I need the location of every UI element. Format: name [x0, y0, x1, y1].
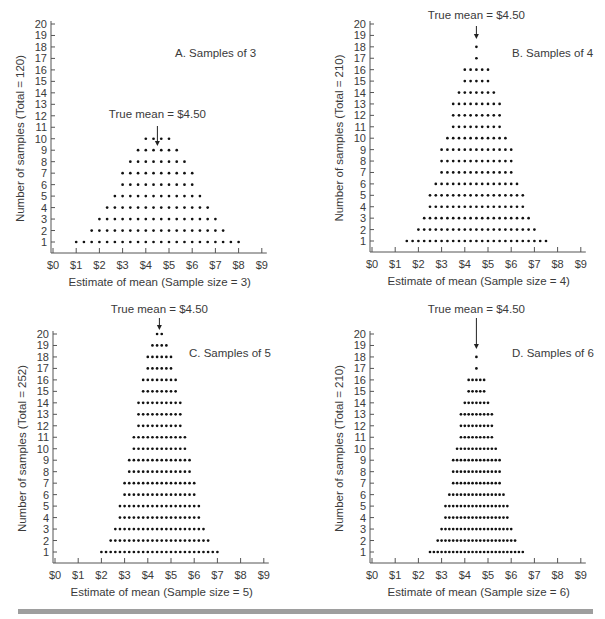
- y-tick-label: 7: [360, 477, 366, 489]
- y-tick-label: 5: [360, 500, 366, 512]
- x-tick-label: $8: [551, 569, 563, 581]
- y-tick-label: 10: [354, 443, 366, 455]
- x-tick-label: $4: [459, 569, 471, 581]
- y-tick-label: 11: [355, 431, 366, 443]
- y-tick-label: 3: [360, 523, 366, 535]
- y-axis-label: Number of samples (Total = 210): [333, 365, 345, 532]
- arrow-down-icon: [474, 318, 479, 349]
- chart-d-svg: 1234567891011121314151617181920$0$1$2$3$…: [0, 0, 605, 619]
- x-tick-label: $2: [412, 569, 424, 581]
- y-tick-label: 9: [360, 454, 366, 466]
- y-tick-label: 2: [360, 535, 366, 547]
- y-tick-label: 1: [360, 546, 366, 558]
- bottom-rule: [18, 609, 593, 614]
- true-mean-annotation: True mean = $4.50: [428, 303, 525, 315]
- chart-panel-d: 1234567891011121314151617181920$0$1$2$3$…: [0, 0, 605, 619]
- y-tick-label: 15: [354, 385, 366, 397]
- y-tick-label: 12: [354, 420, 366, 432]
- x-tick-label: $3: [435, 569, 447, 581]
- x-tick-label: $7: [528, 569, 540, 581]
- y-tick-label: 19: [354, 339, 366, 351]
- x-axis-label: Estimate of mean (Sample size = 6): [387, 586, 570, 598]
- y-tick-label: 18: [354, 351, 366, 363]
- x-tick-label: $6: [505, 569, 517, 581]
- x-tick-label: $9: [575, 569, 587, 581]
- x-tick-label: $0: [366, 569, 378, 581]
- x-tick-label: $5: [482, 569, 494, 581]
- panel-title: D. Samples of 6: [512, 347, 594, 359]
- x-tick-label: $1: [389, 569, 401, 581]
- dot-histogram: [429, 356, 525, 554]
- y-tick-label: 17: [354, 362, 366, 374]
- y-tick-label: 6: [360, 489, 366, 501]
- y-tick-label: 13: [354, 408, 366, 420]
- y-tick-label: 16: [354, 374, 366, 386]
- y-tick-label: 14: [354, 397, 366, 409]
- y-tick-label: 20: [354, 328, 366, 340]
- y-tick-label: 8: [360, 466, 366, 478]
- y-tick-label: 4: [360, 512, 366, 524]
